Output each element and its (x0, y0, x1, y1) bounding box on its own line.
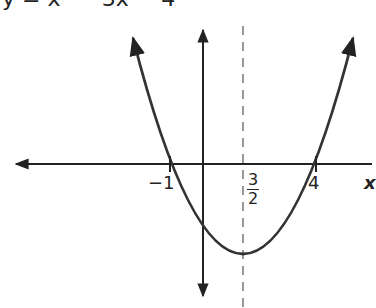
x-axis-label: x (364, 172, 376, 193)
fraction-denominator: 2 (248, 191, 258, 207)
parabola-graph (0, 0, 376, 308)
root-right-label: 4 (308, 172, 319, 193)
axis-of-symmetry-label: 3 2 (247, 172, 259, 207)
root-left-label: −1 (148, 172, 175, 193)
fraction-numerator: 3 (248, 172, 258, 188)
